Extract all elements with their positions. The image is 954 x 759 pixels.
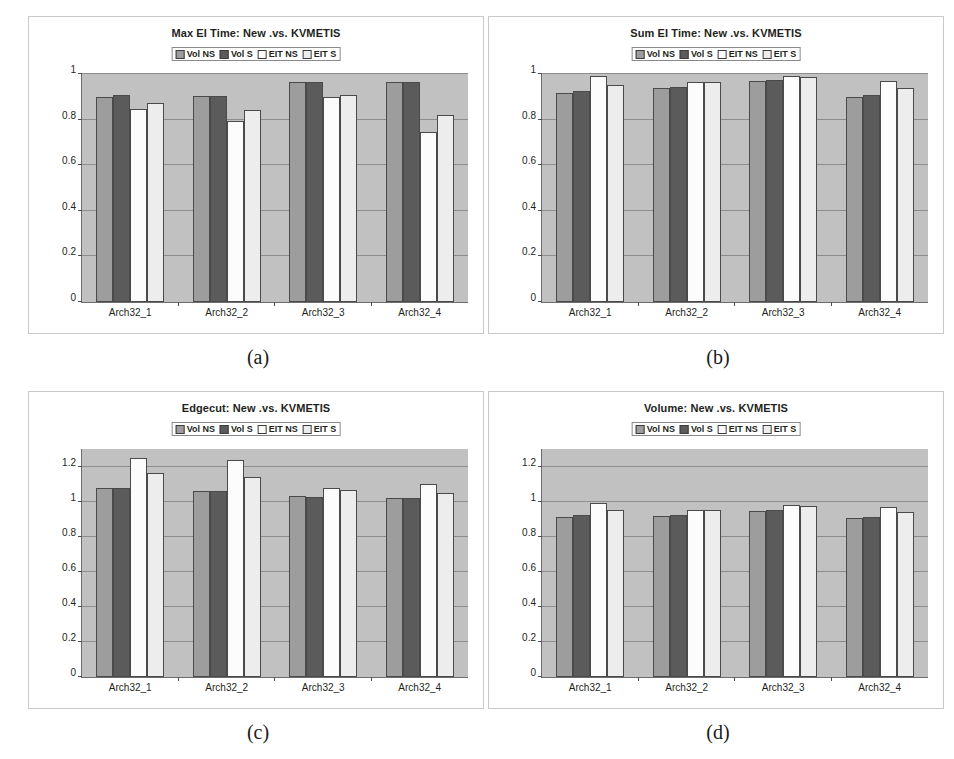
plot-area-c: 00.20.40.60.811.2Arch32_1Arch32_2Arch32_… (81, 449, 468, 678)
plot-area-a: 00.20.40.60.81Arch32_1Arch32_2Arch32_3Ar… (81, 74, 468, 303)
legend-item-eit-s: EIT S (303, 49, 337, 59)
subfigure-caption-b: (b) (488, 346, 948, 369)
bar (590, 76, 607, 302)
bar (130, 458, 147, 677)
legend-swatch-icon (763, 50, 772, 59)
y-axis-label: 0.4 (62, 200, 76, 211)
bar (897, 88, 914, 302)
bar (147, 103, 164, 303)
bar (607, 510, 624, 677)
chart-title-a: Max EI Time: New .vs. KVMETIS (29, 27, 483, 39)
bar-groups: Arch32_1Arch32_2Arch32_3Arch32_4 (82, 449, 468, 677)
bar (783, 76, 800, 302)
bar-group: Arch32_4 (372, 74, 469, 302)
x-axis-label: Arch32_3 (275, 307, 372, 318)
x-axis-tick (178, 302, 179, 306)
legend-label: Vol S (231, 49, 253, 59)
y-axis-label: 0.6 (522, 155, 536, 166)
y-axis-label: 1.2 (522, 456, 536, 467)
bar (289, 496, 306, 677)
y-axis-label: 1 (70, 491, 76, 502)
bar (607, 85, 624, 302)
x-axis-label: Arch32_2 (179, 682, 276, 693)
y-axis-label: 0 (70, 292, 76, 303)
bar-group: Arch32_1 (82, 74, 179, 302)
y-axis-label: 0.8 (62, 109, 76, 120)
y-axis-label: 0.2 (62, 246, 76, 257)
x-axis-tick (831, 302, 832, 306)
x-axis-label: Arch32_2 (179, 307, 276, 318)
x-axis-label: Arch32_1 (542, 307, 639, 318)
bar (749, 511, 766, 677)
x-axis-label: Arch32_3 (735, 682, 832, 693)
subfigure-caption-a: (a) (28, 346, 488, 369)
legend-label: EIT S (314, 424, 337, 434)
bar (800, 506, 817, 677)
chart-legend-c: Vol NSVol SEIT NSEIT S (172, 422, 341, 436)
bar (420, 484, 437, 677)
bar-group: Arch32_4 (832, 449, 929, 677)
x-axis-label: Arch32_4 (372, 682, 469, 693)
bar (556, 517, 573, 677)
bar (210, 96, 227, 302)
chart-frame-a: Max EI Time: New .vs. KVMETIS Vol NSVol … (28, 16, 484, 334)
legend-swatch-icon (718, 425, 727, 434)
bar (340, 490, 357, 677)
y-axis-label: 0.6 (62, 561, 76, 572)
x-axis-tick (371, 677, 372, 681)
y-axis-label: 1 (530, 64, 536, 75)
x-axis-label: Arch32_1 (82, 307, 179, 318)
legend-item-eit-ns: EIT NS (718, 424, 758, 434)
legend-item-vol-ns: Vol NS (636, 49, 675, 59)
y-axis-label: 0.2 (62, 631, 76, 642)
bar (766, 510, 783, 677)
bar (113, 95, 130, 302)
figure-page: Max EI Time: New .vs. KVMETIS Vol NSVol … (0, 0, 954, 759)
legend-label: EIT S (774, 424, 797, 434)
subfigure-b: Sum EI Time: New .vs. KVMETIS Vol NSVol … (488, 16, 948, 381)
bar (210, 491, 227, 677)
bar-group: Arch32_1 (542, 74, 639, 302)
y-axis-label: 1.2 (62, 456, 76, 467)
bar (880, 507, 897, 677)
legend-item-eit-ns: EIT NS (258, 424, 298, 434)
bar (846, 518, 863, 677)
bar (244, 477, 261, 677)
y-axis-label: 0.8 (522, 526, 536, 537)
y-axis-label: 0.6 (62, 155, 76, 166)
legend-label: Vol S (691, 424, 713, 434)
bar (653, 88, 670, 302)
subfigure-c: Edgecut: New .vs. KVMETIS Vol NSVol SEIT… (28, 391, 488, 756)
legend-label: Vol NS (187, 424, 215, 434)
y-axis-label: 0 (70, 667, 76, 678)
legend-swatch-icon (176, 50, 185, 59)
legend-swatch-icon (718, 50, 727, 59)
bar (653, 516, 670, 677)
legend-item-vol-s: Vol S (680, 49, 713, 59)
bar (386, 498, 403, 677)
bar (846, 97, 863, 302)
legend-swatch-icon (258, 425, 267, 434)
legend-label: Vol S (691, 49, 713, 59)
x-axis-tick (638, 302, 639, 306)
bar (687, 510, 704, 677)
legend-label: Vol NS (647, 424, 675, 434)
x-axis-label: Arch32_4 (832, 307, 929, 318)
x-axis-label: Arch32_3 (735, 307, 832, 318)
legend-item-eit-s: EIT S (763, 424, 797, 434)
chart-title-b: Sum EI Time: New .vs. KVMETIS (489, 27, 943, 39)
bar-group: Arch32_4 (372, 449, 469, 677)
bar (403, 82, 420, 302)
bar (193, 96, 210, 302)
legend-swatch-icon (220, 50, 229, 59)
bar (130, 109, 147, 302)
bar-group: Arch32_4 (832, 74, 929, 302)
x-axis-label: Arch32_3 (275, 682, 372, 693)
x-axis-label: Arch32_2 (639, 307, 736, 318)
x-axis-tick (831, 677, 832, 681)
y-axis-label: 1 (70, 64, 76, 75)
y-axis-label: 0.2 (522, 631, 536, 642)
bar (113, 488, 130, 677)
bar (670, 87, 687, 302)
y-axis-label: 0.4 (522, 200, 536, 211)
